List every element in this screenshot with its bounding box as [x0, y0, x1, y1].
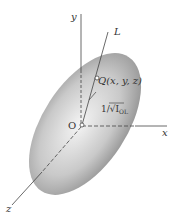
z-axis-label: z: [5, 203, 12, 214]
line-label: L: [113, 26, 121, 37]
ellipsoid-diagram: y L Q(x, y, z) 1/√IOL O x z: [0, 0, 184, 217]
y-axis-label: y: [70, 11, 77, 22]
ellipsoid: [6, 34, 164, 214]
x-axis-label: x: [162, 127, 168, 138]
point-label: Q(x, y, z): [98, 75, 142, 86]
origin-label: O: [68, 120, 76, 131]
origin-point: [80, 123, 84, 127]
